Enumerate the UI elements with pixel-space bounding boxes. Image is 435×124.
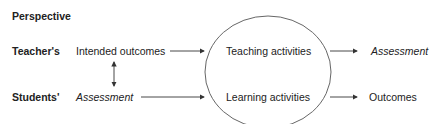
activities-ellipse [205, 16, 331, 124]
teacher-input: Intended outcomes [76, 45, 165, 57]
students-input: Assessment [76, 91, 133, 103]
perspective-header: Perspective [12, 10, 71, 22]
teacher-output: Assessment [371, 45, 428, 57]
row-label-teacher: Teacher's [12, 45, 60, 57]
row-label-students: Students' [12, 91, 59, 103]
teacher-activity: Teaching activities [226, 45, 311, 57]
students-output: Outcomes [369, 91, 417, 103]
students-activity: Learning activities [226, 91, 310, 103]
